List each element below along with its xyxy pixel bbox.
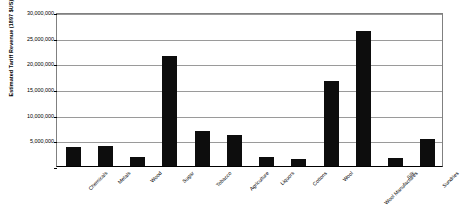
y-axis-tick-label: 25,000,000 xyxy=(12,36,54,42)
y-axis-tick-label: 10,000,000 xyxy=(12,113,54,119)
x-axis-label: Metals xyxy=(117,170,132,185)
bar xyxy=(227,135,242,166)
x-axis-label: Sugar xyxy=(181,170,195,184)
bar xyxy=(420,139,435,166)
bars-series xyxy=(57,14,442,166)
x-axis-label: Cottons xyxy=(311,170,328,187)
y-axis-tick-labels: 5,000,00010,000,00015,000,00020,000,0002… xyxy=(12,13,54,167)
x-axis-label: Wood xyxy=(149,170,163,184)
bar xyxy=(291,159,306,166)
x-axis-label: Tobacco xyxy=(215,170,233,188)
y-axis-tick-label: 5,000,000 xyxy=(12,138,54,144)
x-axis-label: Wool xyxy=(342,170,355,183)
bar xyxy=(98,146,113,166)
bar xyxy=(259,157,274,166)
x-axis-label: Agriculture xyxy=(249,170,271,192)
x-axis-label: Liquors xyxy=(279,170,295,186)
x-axis-category-labels: ChemicalsMetalsWoodSugarTobaccoAgricultu… xyxy=(56,168,443,224)
bar xyxy=(66,147,81,166)
y-axis-tick-label: 30,000,000 xyxy=(12,10,54,16)
plot-area xyxy=(56,13,443,167)
bar xyxy=(388,158,403,166)
x-axis-label: Chemicals xyxy=(87,170,108,191)
y-axis-tick-label: 20,000,000 xyxy=(12,61,54,67)
bar xyxy=(195,131,210,166)
y-axis-tick-label: 15,000,000 xyxy=(12,87,54,93)
bar xyxy=(162,56,177,166)
bar xyxy=(130,157,145,166)
bar xyxy=(324,81,339,166)
bar xyxy=(356,31,371,166)
x-axis-label: Sundries xyxy=(441,170,460,189)
